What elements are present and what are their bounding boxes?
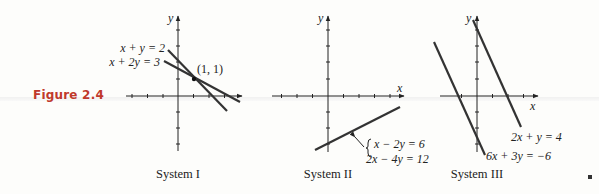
figure-page: Figure 2.4 y [0, 0, 599, 194]
end-of-proof-mark [588, 175, 592, 179]
equation-label-2: x + 2y = 3 [108, 55, 160, 69]
intersection-point [192, 77, 196, 81]
caption-system-i: System I [156, 167, 200, 181]
system-ii-graph: y x x − 2y = 6 2x − 4y = 12 System II [272, 11, 429, 181]
line-2x-plus-y-eq-4 [473, 20, 521, 127]
line-x-plus-y-eq-2 [168, 50, 227, 111]
system-i-graph: y (1, 1) x + y = 2 x + 2y = 3 System I [108, 11, 242, 181]
equation-label-1: x − 2y = 6 [373, 137, 425, 151]
caption-system-ii: System II [304, 167, 352, 181]
x-axis-label: x [529, 99, 536, 113]
figure-graphs: y (1, 1) x + y = 2 x + 2y = 3 System I [0, 0, 599, 194]
y-axis-label: y [317, 11, 324, 25]
pointer-arrow [355, 137, 364, 147]
system-iii-graph: y x 2x + y = 4 6x + 3y = −6 System III [434, 11, 562, 181]
intersection-label: (1, 1) [197, 62, 223, 76]
equation-label-1: x + y = 2 [119, 41, 165, 55]
caption-system-iii: System III [451, 167, 503, 181]
equation-label-2: 2x − 4y = 12 [366, 152, 429, 166]
y-axis-label: y [465, 11, 472, 25]
x-axis-label: x [396, 81, 403, 95]
equation-label-1: 2x + y = 4 [511, 130, 562, 144]
y-axis-label: y [167, 11, 174, 25]
equation-label-2: 6x + 3y = −6 [486, 149, 551, 163]
